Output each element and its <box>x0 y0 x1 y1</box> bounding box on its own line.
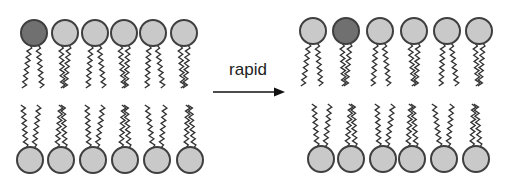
marked-polar-head <box>333 18 359 44</box>
polar-head <box>171 20 197 46</box>
inner-leaflet-lipid <box>177 105 203 173</box>
transition-arrow: rapid <box>213 60 285 97</box>
fatty-acid-tail <box>386 104 395 147</box>
polar-head <box>338 146 364 172</box>
polar-head <box>308 146 334 172</box>
fatty-acid-tail <box>439 43 445 86</box>
fatty-acid-tail <box>145 45 151 88</box>
polar-head <box>82 20 108 46</box>
fatty-acid-tail <box>22 45 32 88</box>
inner-leaflet-lipid <box>48 105 74 173</box>
polar-head <box>140 20 166 46</box>
outer-leaflet-lipid <box>82 20 108 88</box>
polar-head <box>144 147 170 173</box>
polar-head <box>111 20 137 46</box>
outer-leaflet-lipid <box>300 18 326 86</box>
fatty-acid-tail <box>36 45 44 88</box>
fatty-acid-tail <box>159 105 167 148</box>
polar-head <box>434 18 460 44</box>
arrow-label: rapid <box>229 60 267 79</box>
inner-leaflet-lipid <box>80 105 106 173</box>
polar-head <box>367 18 393 44</box>
polar-head <box>300 18 326 44</box>
fatty-acid-tail <box>315 43 323 86</box>
arrow-head-icon <box>274 88 285 97</box>
fatty-acid-tail <box>156 45 165 88</box>
fatty-acid-tail <box>301 43 311 86</box>
polar-head <box>177 147 203 173</box>
fatty-acid-tail <box>98 45 106 88</box>
outer-leaflet-lipid <box>434 18 460 86</box>
fatty-acid-tail <box>33 105 41 148</box>
outer-leaflet-lipid <box>466 18 492 86</box>
polar-head <box>80 147 106 173</box>
inner-leaflet-lipid <box>17 105 43 173</box>
outer-leaflet-lipid <box>140 20 166 88</box>
fatty-acid-tail <box>96 105 105 148</box>
outer-leaflet-lipid <box>367 18 393 86</box>
outer-leaflet-lipid <box>111 20 137 88</box>
fatty-acid-tail <box>432 104 442 147</box>
outer-leaflet-lipid <box>21 20 47 88</box>
fatty-acid-tail <box>21 105 28 148</box>
inner-leaflet-lipid <box>308 104 334 172</box>
fatty-acid-tail <box>450 43 459 86</box>
inner-leaflet-lipid <box>338 104 364 172</box>
fatty-acid-tail <box>86 45 93 88</box>
inner-leaflet-lipid <box>370 104 396 172</box>
polar-head <box>399 146 425 172</box>
inner-leaflet-lipid <box>399 104 425 172</box>
inner-leaflet-lipid <box>144 105 170 173</box>
bilayer-before <box>17 20 203 173</box>
outer-leaflet-lipid <box>333 18 359 86</box>
inner-leaflet-lipid <box>463 104 489 172</box>
outer-leaflet-lipid <box>171 20 197 88</box>
polar-head <box>463 146 489 172</box>
fatty-acid-tail <box>446 104 454 147</box>
fatty-acid-tail <box>371 43 378 86</box>
polar-head <box>401 18 427 44</box>
outer-leaflet-lipid <box>401 18 427 86</box>
polar-head <box>52 20 78 46</box>
polar-head <box>48 147 74 173</box>
fatty-acid-tail <box>85 105 91 148</box>
inner-leaflet-lipid <box>431 104 457 172</box>
polar-head <box>112 147 138 173</box>
polar-head <box>431 146 457 172</box>
inner-leaflet-lipid <box>112 105 138 173</box>
outer-leaflet-lipid <box>52 20 78 88</box>
polar-head <box>370 146 396 172</box>
fatty-acid-tail <box>383 43 391 86</box>
fatty-acid-tail <box>312 104 319 147</box>
polar-head <box>17 147 43 173</box>
polar-head <box>466 18 492 44</box>
fatty-acid-tail <box>375 104 381 147</box>
marked-polar-head <box>21 20 47 46</box>
bilayer-diagram: rapid <box>0 0 506 181</box>
fatty-acid-tail <box>145 105 155 148</box>
fatty-acid-tail <box>324 104 332 147</box>
bilayer-after <box>300 18 492 172</box>
